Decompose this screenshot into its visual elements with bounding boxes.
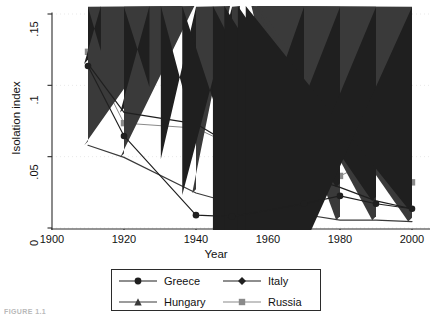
legend-item-russia[interactable]: Russia: [220, 291, 320, 312]
y-axis-title: Isolation index: [10, 53, 22, 183]
legend-key-triangle-icon: [118, 295, 158, 309]
legend-key-square-icon: [222, 295, 262, 309]
x-tick-2000: 2000: [387, 233, 432, 245]
legend-item-hungary[interactable]: Hungary: [112, 291, 220, 312]
legend-row-1: Greece Italy: [112, 270, 320, 291]
legend-row-2: Hungary Russia: [112, 291, 320, 312]
figure-caption: FIGURE 1.1: [4, 308, 46, 317]
legend-label-italy: Italy: [262, 275, 288, 287]
legend-key-circle-icon: [118, 274, 158, 288]
plot-area: [43, 6, 430, 230]
x-tick-1960: 1960: [243, 233, 293, 245]
legend-key-diamond-icon: [222, 274, 262, 288]
figure-container: Isolation index .15.1.050 19001920194019…: [0, 0, 432, 318]
legend-label-greece: Greece: [158, 275, 200, 287]
x-tick-1980: 1980: [315, 233, 365, 245]
y-tick-p05: .05: [28, 155, 40, 189]
chart-legend: Greece Italy Hungary: [111, 269, 321, 311]
x-tick-1900: 1900: [27, 233, 77, 245]
x-axis-title: Year: [0, 248, 432, 260]
y-tick-p15: .15: [28, 12, 40, 46]
legend-item-greece[interactable]: Greece: [112, 270, 220, 291]
chart-svg: [43, 6, 430, 230]
legend-label-russia: Russia: [262, 296, 302, 308]
legend-item-italy[interactable]: Italy: [220, 270, 320, 291]
legend-label-hungary: Hungary: [158, 296, 206, 308]
y-tick-p1: .1: [28, 83, 40, 117]
x-tick-1940: 1940: [171, 233, 221, 245]
x-tick-1920: 1920: [99, 233, 149, 245]
